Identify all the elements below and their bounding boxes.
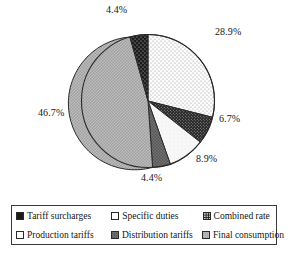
legend-label-tariff-surcharges: Tariff surcharges [27, 211, 91, 221]
legend-item-production-tariffs[interactable]: Production tariffs [16, 230, 111, 240]
legend-swatch-specific-duties-icon [111, 212, 119, 220]
pie-slices [68, 34, 214, 169]
pie-chart-svg [0, 0, 291, 196]
legend-item-distribution-tariffs[interactable]: Distribution tariffs [111, 230, 202, 240]
value-label-distribution-tariffs: 4.4% [141, 172, 162, 183]
legend-swatch-tariff-surcharges-icon [16, 212, 24, 220]
value-label-final-consumption: 46.7% [38, 107, 64, 118]
legend-swatch-distribution-tariffs-icon [111, 231, 119, 239]
legend-label-final-consumption: Final consumption [213, 230, 284, 240]
legend-swatch-final-consumption-icon [202, 231, 210, 239]
legend-item-final-consumption[interactable]: Final consumption [202, 230, 276, 240]
legend-item-combined-rate[interactable]: Combined rate [203, 211, 276, 221]
legend-item-tariff-surcharges[interactable]: Tariff surcharges [16, 211, 111, 221]
legend-swatch-production-tariffs-icon [16, 231, 24, 239]
value-label-combined-rate: 6.7% [219, 113, 240, 124]
legend-row-1: Tariff surcharges Specific duties Combin… [12, 206, 276, 225]
legend-label-combined-rate: Combined rate [214, 211, 270, 221]
legend-swatch-combined-rate-icon [203, 212, 211, 220]
legend-label-production-tariffs: Production tariffs [27, 230, 94, 240]
legend-label-distribution-tariffs: Distribution tariffs [122, 230, 193, 240]
legend-item-specific-duties[interactable]: Specific duties [111, 211, 202, 221]
legend-row-2: Production tariffs Distribution tariffs … [12, 225, 276, 244]
pie-chart-area: 4.4% 28.9% 6.7% 8.9% 4.4% 46.7% [0, 0, 291, 196]
value-label-production-tariffs: 28.9% [215, 26, 241, 37]
value-label-tariff-surcharges: 4.4% [106, 4, 127, 15]
legend: Tariff surcharges Specific duties Combin… [11, 205, 277, 245]
value-label-specific-duties: 8.9% [196, 153, 217, 164]
legend-label-specific-duties: Specific duties [122, 211, 178, 221]
